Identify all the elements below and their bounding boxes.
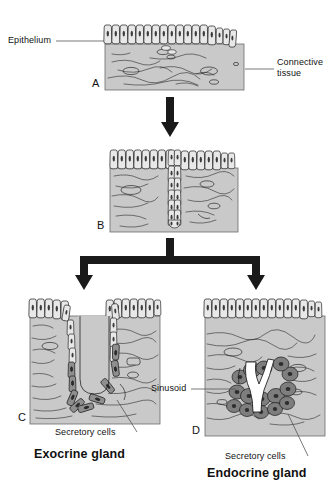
arrow-a-to-b <box>161 97 179 137</box>
panel-letter-a: A <box>92 77 99 89</box>
label-epithelium: Epithelium <box>8 35 51 46</box>
label-secretory-cells-endocrine: Secretory cells <box>225 451 286 462</box>
panel-b-illustration <box>110 150 238 232</box>
panel-letter-c: C <box>18 411 26 423</box>
label-secretory-cells-exocrine: Secretory cells <box>55 427 116 438</box>
caption-exocrine-gland: Exocrine gland <box>34 449 125 460</box>
caption-endocrine-gland: Endocrine gland <box>207 468 306 479</box>
arrow-b-to-cd <box>75 238 265 290</box>
label-connective-tissue: Connective tissue <box>277 57 323 78</box>
panel-d-illustration <box>191 299 325 456</box>
panel-d-epithelium-cells <box>204 299 322 319</box>
panel-letter-d: D <box>192 424 200 436</box>
panel-a-illustration <box>104 25 244 90</box>
figure-canvas: Epithelium Connective tissue Sinusoid Se… <box>0 0 335 486</box>
panel-c-illustration <box>29 299 161 432</box>
panel-b-epithelial-cord <box>168 150 181 228</box>
panel-letter-b: B <box>97 219 104 231</box>
label-sinusoid: Sinusoid <box>151 383 186 394</box>
